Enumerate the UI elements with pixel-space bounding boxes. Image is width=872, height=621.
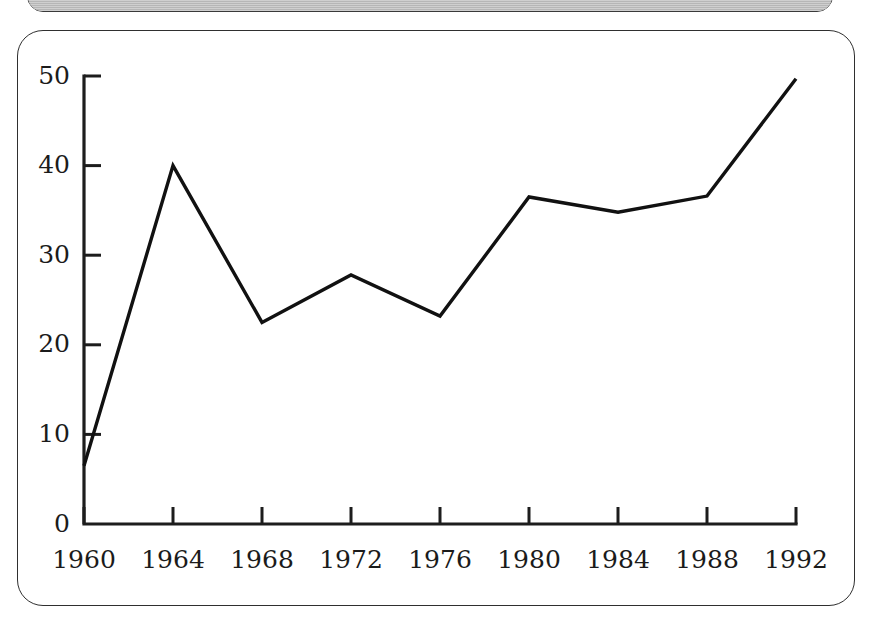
y-axis-tick-labels: 01020304050 [38, 61, 70, 538]
x-axis-tick-labels: 196019641968197219761980198419881992 [52, 545, 828, 574]
data-series-line [84, 79, 796, 466]
x-tick-label: 1972 [319, 545, 383, 574]
x-tick-label: 1976 [408, 545, 472, 574]
y-tick-label: 30 [38, 240, 70, 269]
y-tick-label: 40 [38, 150, 70, 179]
y-tick-label: 0 [54, 509, 70, 538]
x-tick-label: 1988 [675, 545, 739, 574]
y-tick-label: 50 [38, 61, 70, 90]
chart-svg: 01020304050 1960196419681972197619801984… [18, 31, 856, 607]
y-tick-label: 10 [38, 419, 70, 448]
x-tick-label: 1964 [141, 545, 205, 574]
x-tick-label: 1980 [497, 545, 561, 574]
x-tick-label: 1984 [586, 545, 650, 574]
grey-banner-fill [28, 0, 832, 11]
x-tick-label: 1960 [52, 545, 116, 574]
x-axis-tick-marks [84, 507, 796, 524]
figure-frame: 01020304050 1960196419681972197619801984… [17, 30, 855, 606]
axis-lines [84, 76, 796, 524]
x-tick-label: 1968 [230, 545, 294, 574]
x-tick-label: 1992 [764, 545, 828, 574]
y-tick-label: 20 [38, 329, 70, 358]
grey-banner-strip [27, 0, 833, 12]
y-axis-tick-marks [84, 76, 101, 434]
line-chart: 01020304050 1960196419681972197619801984… [18, 31, 856, 607]
